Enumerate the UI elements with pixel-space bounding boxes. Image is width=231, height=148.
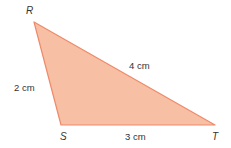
vertex-label-s: S: [60, 131, 67, 142]
side-label-rs: 2 cm: [14, 82, 35, 93]
side-label-rt: 4 cm: [129, 60, 150, 71]
vertex-label-r: R: [26, 5, 33, 16]
vertex-label-t: T: [212, 131, 219, 142]
side-label-st: 3 cm: [125, 131, 146, 142]
triangle-diagram: R S T 2 cm 3 cm 4 cm: [0, 0, 231, 148]
triangle-rst: [34, 22, 215, 125]
